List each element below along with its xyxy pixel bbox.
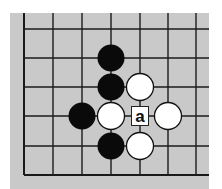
- point-label-a[interactable]: a: [131, 106, 149, 126]
- black-stone[interactable]: [69, 103, 96, 130]
- white-stone[interactable]: [98, 103, 125, 130]
- black-stone[interactable]: [98, 74, 125, 101]
- white-stone[interactable]: [155, 103, 182, 130]
- white-stone[interactable]: [127, 74, 154, 101]
- white-stone[interactable]: [127, 133, 154, 160]
- black-stone[interactable]: [98, 45, 125, 72]
- black-stone[interactable]: [98, 133, 125, 160]
- go-board-grid: [0, 0, 222, 189]
